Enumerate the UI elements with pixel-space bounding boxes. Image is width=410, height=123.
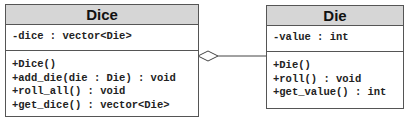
method: +roll() : void [273,73,403,87]
method: +get_value() : int [273,86,403,100]
class-dice-methods: +Dice() +add_die(die : Die) : void +roll… [6,51,198,112]
method: +Die() [273,59,403,73]
method: +add_die(die : Die) : void [12,72,198,86]
attribute: -dice : vector<Die> [12,30,198,44]
attribute: -value : int [273,31,403,45]
class-dice-name: Dice [6,5,198,25]
class-die-name: Die [267,6,403,26]
method: +roll_all() : void [12,85,198,99]
aggregation-diamond-icon [198,51,218,61]
class-die-attributes: -value : int [267,26,403,52]
class-die: Die -value : int +Die() +roll() : void +… [266,5,404,109]
method: +get_dice() : vector<Die> [12,99,198,113]
class-dice-attributes: -dice : vector<Die> [6,25,198,51]
class-die-methods: +Die() +roll() : void +get_value() : int [267,52,403,100]
method: +Dice() [12,58,198,72]
class-dice: Dice -dice : vector<Die> +Dice() +add_di… [5,4,199,117]
